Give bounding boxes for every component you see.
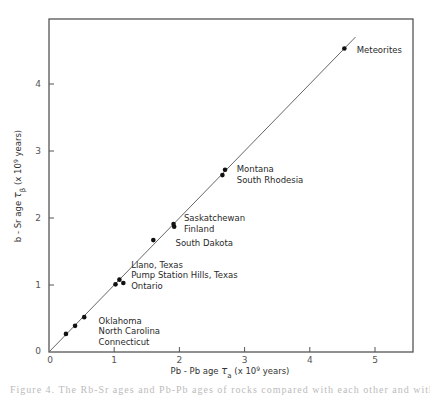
annotation-label: MontanaSouth Rhodesia — [237, 164, 304, 185]
diagonal-line — [49, 37, 355, 352]
x-tick-label: 2 — [177, 355, 183, 365]
x-tick-label: 0 — [47, 355, 53, 365]
data-point — [64, 332, 69, 337]
y-tick-label: 4 — [35, 79, 41, 89]
data-point — [223, 167, 228, 172]
y-tick-label: 2 — [35, 213, 41, 223]
y-axis-title: b - Sr age τβ (x 109 years) — [12, 130, 28, 242]
data-point — [172, 224, 177, 229]
annotation-label: SaskatchewanFinland — [184, 213, 245, 234]
annotation-label: Meteorites — [357, 45, 403, 55]
y-tick-label: 1 — [35, 280, 41, 290]
plot-border — [49, 19, 413, 352]
x-axis-title: Pb - Pb age τa (x 109 years) — [171, 365, 290, 381]
data-point — [121, 281, 126, 286]
x-tick-label: 5 — [372, 355, 378, 365]
annotation-label: Llano, TexasPump Station Hills, TexasOnt… — [131, 260, 238, 291]
plot-frame — [49, 19, 413, 352]
y-tick-label: 0 — [35, 346, 41, 356]
x-tick-label: 4 — [307, 355, 313, 365]
y-tick-label: 3 — [35, 146, 41, 156]
data-point — [117, 277, 122, 282]
data-point — [113, 282, 118, 287]
data-point — [82, 315, 87, 320]
annotation-label: OklahomaNorth CarolinaConnecticut — [99, 316, 160, 347]
reference-line-y-equals-x — [49, 37, 355, 352]
annotation-label: South Dakota — [175, 238, 233, 248]
figure-caption: Figure 4. The Rb-Sr ages and Pb-Pb ages … — [10, 384, 430, 395]
annotations: MeteoritesMontanaSouth RhodesiaSaskatche… — [99, 45, 403, 347]
x-tick-label: 1 — [111, 355, 117, 365]
data-point — [151, 238, 156, 243]
data-point — [342, 46, 347, 51]
data-point — [73, 324, 78, 329]
data-point — [220, 173, 225, 178]
x-tick-label: 3 — [242, 355, 248, 365]
